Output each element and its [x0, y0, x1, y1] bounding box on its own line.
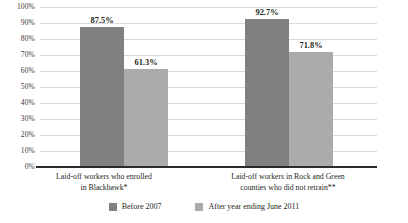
legend-item-after-2011: After year ending June 2011 — [195, 202, 299, 211]
y-axis-tick-label: 60% — [21, 67, 35, 75]
x-axis-line — [36, 166, 377, 168]
y-axis-tick-label: 80% — [21, 35, 35, 43]
y-axis-tick-label: 90% — [21, 19, 35, 27]
legend: Before 2007 After year ending June 2011 — [0, 202, 408, 211]
bar-rect — [245, 19, 289, 167]
legend-swatch-icon — [109, 203, 117, 211]
y-axis-tick-label: 100% — [17, 3, 35, 11]
bar-value-label: 61.3% — [134, 58, 157, 67]
legend-label: After year ending June 2011 — [208, 202, 299, 211]
bar-value-label: 92.7% — [255, 8, 278, 17]
y-axis-tick-label: 20% — [21, 131, 35, 139]
bar-after-2011-group-1: 71.8% — [289, 52, 333, 167]
bar-before-2007-group-0: 87.5% — [80, 27, 124, 167]
legend-label: Before 2007 — [122, 202, 162, 211]
y-axis-tick-label: 10% — [21, 147, 35, 155]
x-axis-category-label-1: Laid-off workers in Rock and Green count… — [198, 172, 378, 193]
bar-group: 92.7% 71.8% — [245, 7, 373, 167]
category-label-line: Laid-off workers in Rock and Green — [198, 172, 378, 183]
category-label-line: Laid-off workers who enrolled — [40, 172, 168, 183]
bar-value-label: 71.8% — [299, 41, 322, 50]
y-axis-tick-label: 70% — [21, 51, 35, 59]
y-axis-tick-label: 50% — [21, 83, 35, 91]
bar-value-label: 87.5% — [90, 16, 113, 25]
legend-item-before-2007: Before 2007 — [109, 202, 162, 211]
bar-rect — [289, 52, 333, 167]
legend-swatch-icon — [195, 203, 203, 211]
bar-rect — [80, 27, 124, 167]
bar-before-2007-group-1: 92.7% — [245, 19, 289, 167]
x-axis-category-label-0: Laid-off workers who enrolled in Blackha… — [40, 172, 168, 193]
plot-area: 87.5% 61.3% 92.7% 71.8% — [40, 7, 377, 167]
category-label-line: in Blackhawk* — [40, 183, 168, 194]
category-label-line: counties who did not retrain** — [198, 183, 378, 194]
y-axis-tick-label: 40% — [21, 99, 35, 107]
bar-chart: 100%90%80%70%60%50%40%30%20%10%0% 87.5% … — [0, 0, 408, 223]
y-axis: 100%90%80%70%60%50%40%30%20%10%0% — [0, 0, 38, 174]
bar-rect — [124, 69, 168, 167]
y-axis-tick-label: 30% — [21, 115, 35, 123]
bar-after-2011-group-0: 61.3% — [124, 69, 168, 167]
bar-group: 87.5% 61.3% — [80, 7, 208, 167]
y-axis-tick-label: 0% — [25, 163, 35, 171]
